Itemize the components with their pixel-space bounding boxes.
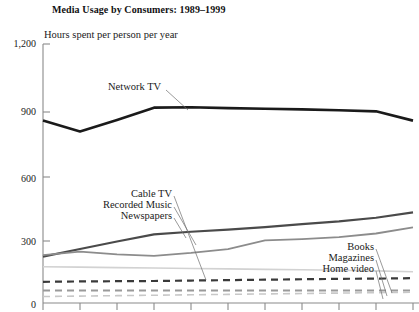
series-label-cable-tv: Cable TV [50,188,172,199]
series-label-books: Books [276,241,374,252]
series-line-books [43,278,413,282]
leader-cable-tv [174,196,206,280]
series-label-home-video: Home video [276,263,374,274]
series-label-newspapers: Newspapers [50,210,172,221]
leader-recorded-music [174,207,196,245]
y-axis-ticks [43,44,50,241]
chart-container: Media Usage by Consumers: 1989–1999 Hour… [0,0,419,312]
series-label-network-tv: Network TV [108,81,161,92]
leader-home-video [376,271,383,299]
series-line-home-video [43,292,413,296]
series-label-recorded-music: Recorded Music [50,199,172,210]
leader-newspapers [174,218,186,238]
series-label-magazines: Magazines [276,252,374,263]
x-axis-ticks [43,303,413,310]
series-line-network-tv [43,107,413,131]
